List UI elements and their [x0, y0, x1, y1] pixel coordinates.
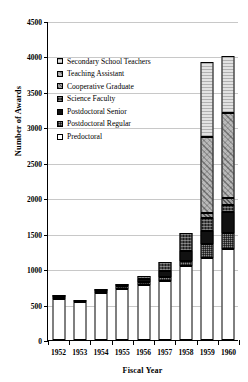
x-tick-mark: [133, 340, 134, 345]
bar-segment[interactable]: [201, 213, 214, 218]
legend-label: Postdoctoral Senior: [67, 108, 127, 116]
bar-segment[interactable]: [116, 284, 129, 286]
x-tick-label: 1953: [72, 348, 87, 357]
legend-label: Science Faculty: [67, 95, 115, 103]
bar[interactable]: [222, 56, 235, 340]
bar-segment[interactable]: [158, 277, 171, 281]
bar-segment[interactable]: [95, 289, 108, 291]
bar-segment[interactable]: [158, 271, 171, 277]
x-tick-mark: [48, 340, 49, 345]
legend-item[interactable]: Science Faculty: [57, 93, 169, 106]
legend-swatch-icon: [57, 71, 63, 77]
legend-swatch-icon: [57, 121, 63, 127]
x-tick-mark: [175, 340, 176, 345]
x-tick-label: 1956: [136, 348, 151, 357]
legend-label: Teaching Assistant: [67, 70, 124, 78]
x-tick-mark: [218, 340, 219, 345]
bar[interactable]: [201, 62, 214, 340]
y-tick-label: 500: [31, 301, 42, 310]
bar-segment[interactable]: [222, 212, 235, 233]
bar-segment[interactable]: [201, 62, 214, 137]
x-tick-mark: [90, 340, 91, 345]
y-tick-mark: [44, 128, 48, 129]
y-tick-mark: [44, 22, 48, 23]
y-tick-mark: [44, 93, 48, 94]
bar-segment[interactable]: [222, 233, 235, 249]
y-tick-mark: [44, 199, 48, 200]
legend-item[interactable]: Secondary School Teachers: [57, 55, 169, 68]
bar-segment[interactable]: [179, 233, 192, 251]
legend-swatch-icon: [57, 109, 63, 115]
bar[interactable]: [116, 285, 129, 340]
bar-segment[interactable]: [137, 282, 150, 286]
bar-segment[interactable]: [52, 299, 65, 340]
bar-segment[interactable]: [52, 297, 65, 299]
y-tick-label: 3000: [27, 124, 42, 133]
y-tick-mark: [44, 164, 48, 165]
legend-swatch-icon: [57, 83, 63, 89]
bar[interactable]: [158, 262, 171, 340]
bar-segment[interactable]: [158, 281, 171, 340]
bar[interactable]: [137, 276, 150, 341]
y-tick-label: 4500: [27, 18, 42, 27]
bar-segment[interactable]: [73, 300, 86, 302]
x-tick-label: 1957: [157, 348, 172, 357]
y-tick-label: 2000: [27, 195, 42, 204]
legend-swatch-icon: [57, 134, 63, 140]
bar-segment[interactable]: [222, 205, 235, 212]
legend-label: Cooperative Graduate: [67, 83, 134, 91]
x-tick-label: 1955: [115, 348, 130, 357]
x-tick-mark: [112, 340, 113, 345]
bar-segment[interactable]: [222, 198, 235, 205]
legend-item[interactable]: Cooperative Graduate: [57, 80, 169, 93]
bar-segment[interactable]: [201, 218, 214, 231]
x-tick-mark: [154, 340, 155, 345]
legend-item[interactable]: Teaching Assistant: [57, 68, 169, 81]
y-tick-label: 1500: [27, 230, 42, 239]
bar-segment[interactable]: [137, 285, 150, 340]
bar-segment[interactable]: [179, 266, 192, 340]
bar-segment[interactable]: [52, 295, 65, 297]
bar-segment[interactable]: [116, 286, 129, 289]
bar[interactable]: [73, 301, 86, 340]
legend-item[interactable]: Postdoctoral Senior: [57, 105, 169, 118]
bar-segment[interactable]: [137, 279, 150, 282]
bar-segment[interactable]: [222, 249, 235, 340]
bar-segment[interactable]: [222, 56, 235, 113]
bar-segment[interactable]: [137, 276, 150, 279]
bar-segment[interactable]: [201, 258, 214, 340]
x-tick-mark: [239, 340, 240, 345]
x-tick-mark: [69, 340, 70, 345]
bar-segment[interactable]: [222, 113, 235, 198]
legend-item[interactable]: Predoctoral: [57, 131, 169, 144]
legend-label: Secondary School Teachers: [67, 58, 151, 66]
x-tick-label: 1958: [178, 348, 193, 357]
bar[interactable]: [95, 290, 108, 340]
bar-segment[interactable]: [95, 293, 108, 340]
bar-segment[interactable]: [201, 137, 214, 213]
y-tick-mark: [44, 57, 48, 58]
x-tick-label: 1959: [200, 348, 215, 357]
x-tick-label: 1952: [51, 348, 66, 357]
legend-swatch-icon: [57, 96, 63, 102]
bar[interactable]: [52, 296, 65, 340]
x-tick-label: 1954: [94, 348, 109, 357]
bar[interactable]: [179, 233, 192, 340]
y-tick-label: 0: [38, 337, 42, 346]
y-tick-mark: [44, 270, 48, 271]
x-axis-title: Fiscal Year: [47, 366, 238, 375]
bar-segment[interactable]: [158, 262, 171, 271]
bar-segment[interactable]: [73, 302, 86, 340]
bar-segment[interactable]: [179, 251, 192, 261]
y-tick-mark: [44, 235, 48, 236]
chart-container: Number of Awards 05001000150020002500300…: [0, 0, 248, 382]
legend: Secondary School TeachersTeaching Assist…: [57, 55, 169, 143]
legend-swatch-icon: [57, 58, 63, 64]
gridline: [48, 22, 238, 23]
bar-segment[interactable]: [201, 244, 214, 258]
y-axis-title: Number of Awards: [13, 51, 23, 191]
bar-segment[interactable]: [179, 261, 192, 266]
legend-item[interactable]: Postdoctoral Regular: [57, 118, 169, 131]
bar-segment[interactable]: [201, 231, 214, 244]
bar-segment[interactable]: [116, 289, 129, 340]
